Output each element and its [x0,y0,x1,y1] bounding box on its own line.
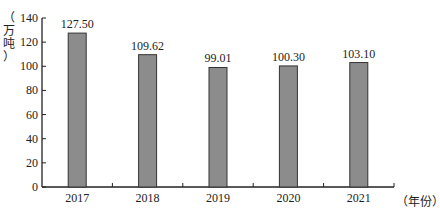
bar-value-label: 127.50 [61,17,94,31]
y-axis-label: （ 万 吨 ） [2,12,16,64]
bar-value-label: 99.01 [205,51,232,65]
y-tick-label: 100 [20,59,38,73]
x-tick-label: 2019 [206,191,230,205]
y-tick-label: 140 [20,11,38,25]
y-tick-label: 0 [32,180,38,194]
bar-2017 [68,33,86,187]
bar-2021 [350,63,368,187]
y-tick-label: 40 [26,132,38,146]
bars: 127.50109.6299.01100.30103.10 [61,17,376,187]
bar-value-label: 100.30 [272,50,305,64]
x-tick-label: 2017 [65,191,89,205]
bar-value-label: 109.62 [131,39,164,53]
bar-2018 [139,55,157,187]
y-tick-label: 20 [26,156,38,170]
y-tick-label: 60 [26,108,38,122]
x-axis-label: （年份） [396,192,440,210]
x-tick-label: 2021 [347,191,371,205]
bar-value-label: 103.10 [342,47,375,61]
y-tick-label: 80 [26,83,38,97]
bar-chart: 02040608010012014020172018201920202021 1… [0,0,440,217]
bar-2020 [279,66,297,187]
x-tick-label: 2018 [136,191,160,205]
x-tick-label: 2020 [276,191,300,205]
y-label-char: ） [2,51,16,64]
y-tick-label: 120 [20,35,38,49]
bar-2019 [209,67,227,187]
